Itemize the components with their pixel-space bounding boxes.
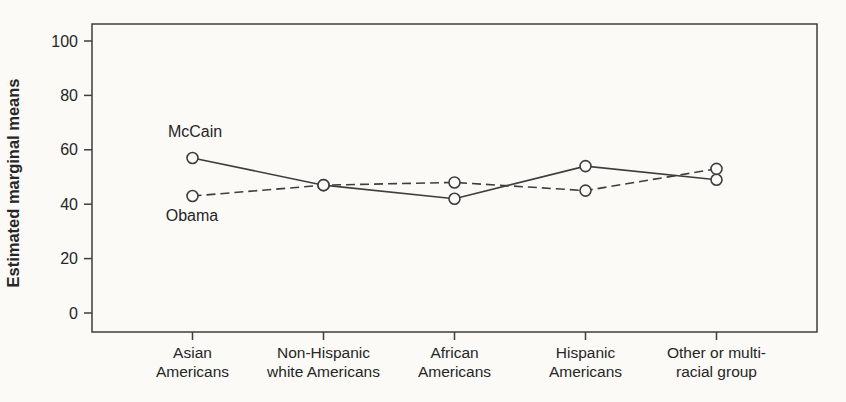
y-tick-label-0: 0 xyxy=(69,305,78,322)
obama-marker-3 xyxy=(580,185,591,196)
mccain-marker-3 xyxy=(580,161,591,172)
y-tick-label-1: 20 xyxy=(60,250,78,267)
x-category-label-4: Other or multi-racial group xyxy=(667,344,766,380)
y-tick-label-2: 40 xyxy=(60,196,78,213)
mccain-marker-4 xyxy=(711,174,722,185)
obama-marker-4 xyxy=(711,163,722,174)
chart-canvas: 020406080100AsianAmericansNon-Hispanicwh… xyxy=(0,0,846,402)
y-tick-label-3: 60 xyxy=(60,141,78,158)
x-category-label-1: Non-Hispanicwhite Americans xyxy=(266,344,380,380)
mccain-marker-2 xyxy=(449,193,460,204)
line-chart-figure: Estimated marginal means 020406080100Asi… xyxy=(0,0,846,402)
x-category-label-2: AfricanAmericans xyxy=(418,344,491,380)
x-category-label-3: HispanicAmericans xyxy=(549,344,622,380)
y-tick-label-4: 80 xyxy=(60,87,78,104)
obama-marker-0 xyxy=(187,191,198,202)
y-tick-label-5: 100 xyxy=(51,33,78,50)
x-category-label-0: AsianAmericans xyxy=(156,344,229,380)
mccain-series-label: McCain xyxy=(168,123,222,141)
mccain-marker-0 xyxy=(187,152,198,163)
obama-marker-2 xyxy=(449,177,460,188)
obama-series-label: Obama xyxy=(166,207,218,225)
obama-marker-1 xyxy=(318,180,329,191)
